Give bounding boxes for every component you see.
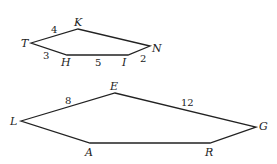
vertex-label-e: E [109, 80, 118, 93]
side-length-in: 2 [140, 53, 146, 64]
side-length-hi: 5 [95, 57, 101, 68]
vertex-label-h: H [60, 56, 71, 69]
side-length-eg: 12 [181, 97, 194, 108]
vertex-label-r: R [204, 146, 213, 159]
side-length-le: 8 [65, 95, 71, 106]
pentagon-legra [21, 93, 256, 143]
vertex-label-i: I [121, 56, 127, 69]
vertex-label-l: L [9, 115, 17, 128]
similar-pentagons-diagram: T K N I H 4 3 5 2 L E G R A 8 12 [0, 0, 277, 164]
vertex-label-n: N [151, 42, 162, 55]
vertex-label-k: K [73, 16, 83, 29]
vertex-label-a: A [84, 146, 93, 159]
vertex-label-g: G [259, 120, 268, 133]
vertex-label-t: T [21, 37, 30, 50]
side-length-tk: 4 [51, 24, 57, 35]
side-length-th: 3 [43, 50, 49, 61]
